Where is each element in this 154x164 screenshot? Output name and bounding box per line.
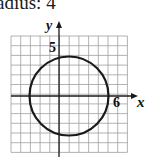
y-axis-label: y <box>44 18 53 33</box>
coordinate-graph: y 5 6 x <box>0 0 154 164</box>
x-axis-label: x <box>136 94 145 110</box>
y-tick-label: 5 <box>49 40 56 55</box>
y-axis-arrow-icon <box>56 21 62 28</box>
x-tick-label: 6 <box>113 95 120 110</box>
